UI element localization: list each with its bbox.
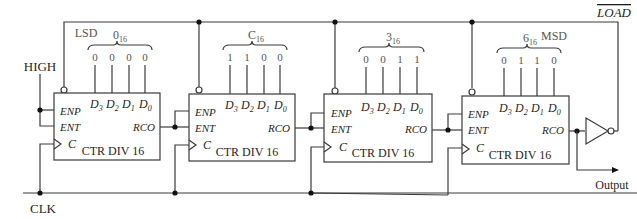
svg-text:D3: D3: [498, 101, 512, 117]
counter-name: CTR DIV 16: [352, 146, 414, 160]
svg-text:D2: D2: [376, 100, 390, 116]
svg-text:D2: D2: [514, 101, 528, 117]
data-input-value: 1: [227, 51, 233, 63]
load-label: LOAD: [596, 5, 632, 20]
data-input-value: 0: [142, 51, 148, 63]
clk-label: CLK: [30, 201, 57, 216]
svg-text:016: 016: [113, 28, 127, 44]
hex-subscript: 16: [119, 35, 127, 44]
svg-text:D0: D0: [409, 100, 423, 116]
svg-text:D0: D0: [547, 101, 561, 117]
counter-name: CTR DIV 16: [216, 145, 278, 159]
data-input-value: 0: [551, 54, 557, 66]
rco-pin: RCO: [132, 121, 155, 133]
svg-text:D3: D3: [224, 98, 238, 114]
svg-text:D1: D1: [392, 100, 406, 116]
counter-3-text: 316 0 0 1 1 D3 D2 D1 D0 ENP ENT C RCO CT…: [330, 30, 427, 160]
svg-text:D1: D1: [530, 101, 544, 117]
enp-pin: ENP: [59, 105, 81, 117]
svg-text:D2: D2: [240, 98, 254, 114]
svg-text:D3: D3: [360, 100, 374, 116]
svg-text:D0: D0: [273, 98, 287, 114]
clock-pin: C: [203, 138, 212, 152]
svg-text:C16: C16: [248, 28, 264, 44]
clock-pin: C: [68, 137, 77, 151]
counter-circuit-diagram: HIGH CLK LOAD Output LSD MSD 016 0 0 0 0…: [0, 0, 637, 219]
data-input-value: 1: [397, 53, 403, 65]
rco-pin: RCO: [404, 123, 427, 135]
data-input-value: 0: [109, 51, 115, 63]
svg-text:D0: D0: [138, 97, 152, 113]
counter-name: CTR DIV 16: [489, 148, 551, 162]
enp-pin: ENP: [467, 108, 489, 120]
msd-label: MSD: [541, 29, 567, 43]
ent-pin: ENT: [59, 121, 81, 133]
data-input-value: 0: [501, 54, 507, 66]
enp-pin: ENP: [330, 107, 352, 119]
data-input-value: 1: [518, 54, 524, 66]
data-input-value: 0: [261, 51, 267, 63]
data-input-value: 1: [414, 53, 420, 65]
lsd-label: LSD: [75, 26, 98, 40]
svg-text:616: 616: [523, 31, 537, 47]
data-input-value: 0: [126, 51, 132, 63]
enp-pin: ENP: [194, 106, 216, 118]
counter-1-text: 016 0 0 0 0 D3 D2 D1 D0 ENP ENT C RCO CT…: [59, 28, 155, 158]
high-label: HIGH: [24, 59, 57, 74]
data-input-value: 0: [92, 51, 98, 63]
ent-pin: ENT: [467, 124, 489, 136]
svg-text:D1: D1: [121, 97, 135, 113]
rco-pin: RCO: [541, 124, 564, 136]
data-input-value: 0: [363, 53, 369, 65]
data-input-value: 1: [534, 54, 540, 66]
counter-4-text: 616 0 1 1 0 D3 D2 D1 D0 ENP ENT C RCO CT…: [467, 31, 564, 162]
data-input-value: 1: [244, 51, 250, 63]
svg-text:D3: D3: [89, 97, 103, 113]
counter-2-text: C16 1 1 0 0 D3 D2 D1 D0 ENP ENT C RCO CT…: [194, 28, 290, 159]
rco-pin: RCO: [267, 122, 290, 134]
data-input-value: 0: [380, 53, 386, 65]
ent-pin: ENT: [330, 123, 352, 135]
counter-name: CTR DIV 16: [82, 144, 144, 158]
ent-pin: ENT: [194, 122, 216, 134]
svg-text:D2: D2: [105, 97, 119, 113]
clock-pin: C: [339, 140, 348, 154]
svg-text:D1: D1: [256, 98, 270, 114]
clock-pin: C: [476, 141, 485, 155]
output-label: Output: [595, 178, 629, 192]
svg-text:316: 316: [386, 30, 400, 46]
data-input-value: 0: [277, 51, 283, 63]
